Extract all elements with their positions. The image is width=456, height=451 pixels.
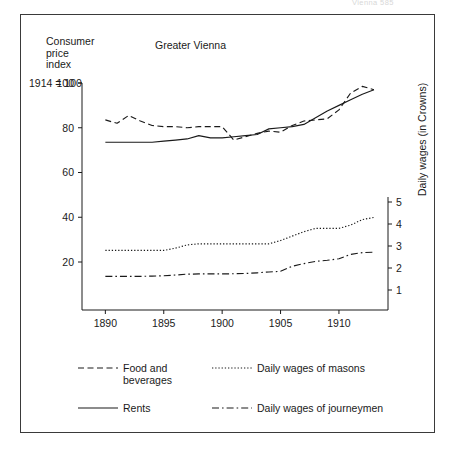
series-line — [105, 90, 374, 143]
y-tick-label: 100 — [56, 77, 74, 89]
plot-area: 204060801001234518901895190019051910 — [0, 0, 456, 451]
y-tick-label: 80 — [62, 122, 74, 134]
figure-root: Vienna 585 Consumer price index Greater … — [0, 0, 456, 451]
y2-tick-label: 4 — [396, 218, 402, 230]
x-tick-label: 1905 — [269, 317, 293, 329]
series-group — [105, 86, 374, 276]
y2-tick-label: 1 — [396, 284, 402, 296]
y-tick-label: 20 — [62, 256, 74, 268]
legend-label-food-and-beverages: Food and beverages — [123, 363, 172, 387]
x-tick-label: 1910 — [327, 317, 351, 329]
y-tick-label: 40 — [62, 211, 74, 223]
y2-tick-label: 5 — [396, 196, 402, 208]
series-line — [105, 86, 374, 140]
axes-group: 204060801001234518901895190019051910 — [56, 77, 402, 329]
y2-tick-label: 2 — [396, 262, 402, 274]
x-tick-label: 1900 — [210, 317, 234, 329]
y2-tick-label: 3 — [396, 240, 402, 252]
x-tick-label: 1895 — [152, 317, 176, 329]
legend-label-rents: Rents — [123, 403, 150, 415]
x-tick-label: 1890 — [94, 317, 118, 329]
legend-label-daily-wages-of-journeymen: Daily wages of journeymen — [257, 403, 383, 415]
y-tick-label: 60 — [62, 166, 74, 178]
series-line — [105, 252, 374, 276]
series-line — [105, 217, 374, 250]
legend-label-daily-wages-of-masons: Daily wages of masons — [257, 363, 365, 375]
